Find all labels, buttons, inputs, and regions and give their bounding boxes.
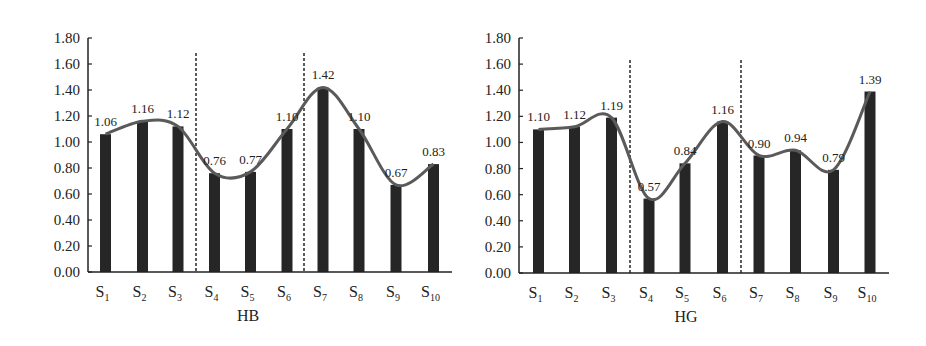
bar-s9 bbox=[828, 170, 839, 273]
x-tick-label: S2 bbox=[133, 283, 147, 303]
x-tick-label: S9 bbox=[824, 284, 838, 304]
y-tick-label: 1.00 bbox=[54, 134, 80, 150]
bar-s5 bbox=[680, 163, 691, 273]
value-label: 1.16 bbox=[711, 102, 734, 117]
y-tick-label: 1.40 bbox=[485, 82, 511, 98]
bar-s6 bbox=[282, 129, 293, 272]
y-tick-label: 0.00 bbox=[485, 265, 511, 281]
bar-s1 bbox=[100, 134, 111, 272]
bar-s4 bbox=[209, 173, 220, 272]
value-label: 0.57 bbox=[638, 179, 661, 194]
x-tick-label: S6 bbox=[713, 284, 727, 304]
y-tick-label: 0.80 bbox=[54, 160, 80, 176]
y-tick-label: 1.20 bbox=[485, 108, 511, 124]
x-tick-label: S4 bbox=[205, 283, 219, 303]
chart-canvas: 0.000.200.400.600.801.001.201.401.601.80… bbox=[0, 0, 926, 346]
bar-s3 bbox=[606, 118, 617, 273]
y-tick-label: 1.40 bbox=[54, 82, 80, 98]
value-label: 1.19 bbox=[600, 98, 623, 113]
bar-s1 bbox=[533, 129, 544, 273]
value-label: 0.84 bbox=[674, 143, 697, 158]
x-tick-label: S2 bbox=[565, 284, 579, 304]
x-tick-label: S5 bbox=[675, 284, 689, 304]
chart-hb: 0.000.200.400.600.801.001.201.401.601.80… bbox=[54, 30, 452, 324]
x-tick-label: S1 bbox=[529, 284, 543, 304]
value-label: 1.10 bbox=[527, 109, 550, 124]
value-label: 0.79 bbox=[822, 150, 845, 165]
y-tick-label: 1.00 bbox=[485, 134, 511, 150]
value-label: 0.90 bbox=[748, 136, 771, 151]
bar-s7 bbox=[754, 156, 765, 274]
y-tick-label: 0.80 bbox=[485, 161, 511, 177]
x-tick-label: S9 bbox=[386, 283, 400, 303]
bar-s5 bbox=[245, 172, 256, 272]
value-label: 1.39 bbox=[859, 72, 882, 87]
x-tick-label: S1 bbox=[96, 283, 110, 303]
x-tick-label: S6 bbox=[277, 283, 291, 303]
y-tick-label: 1.60 bbox=[54, 56, 80, 72]
value-label: 0.76 bbox=[203, 153, 226, 168]
value-label: 0.77 bbox=[239, 152, 262, 167]
bar-s9 bbox=[391, 185, 402, 272]
x-tick-label: S8 bbox=[349, 283, 363, 303]
x-tick-label: S4 bbox=[639, 284, 653, 304]
bar-s2 bbox=[137, 121, 148, 272]
value-label: 1.06 bbox=[94, 114, 117, 129]
bar-s4 bbox=[644, 199, 655, 273]
y-tick-label: 0.60 bbox=[54, 186, 80, 202]
x-tick-label: S5 bbox=[241, 283, 255, 303]
bar-s6 bbox=[717, 122, 728, 273]
x-tick-label: S10 bbox=[858, 284, 877, 304]
bar-s10 bbox=[865, 92, 876, 273]
x-tick-label: S8 bbox=[786, 284, 800, 304]
value-label: 0.67 bbox=[385, 165, 408, 180]
bar-s8 bbox=[790, 150, 801, 273]
bar-s10 bbox=[428, 164, 439, 272]
value-label: 1.16 bbox=[131, 101, 154, 116]
x-tick-label: S3 bbox=[602, 284, 616, 304]
trend-line bbox=[539, 92, 871, 200]
value-label: 1.42 bbox=[312, 67, 335, 82]
value-label: 0.94 bbox=[784, 130, 807, 145]
value-label: 1.12 bbox=[167, 106, 190, 121]
value-label: 1.10 bbox=[348, 109, 371, 124]
bar-s7 bbox=[318, 87, 329, 272]
chart-title: HB bbox=[237, 307, 259, 324]
y-tick-label: 1.20 bbox=[54, 108, 80, 124]
bar-s3 bbox=[173, 126, 184, 272]
y-tick-label: 0.20 bbox=[54, 238, 80, 254]
x-tick-label: S3 bbox=[168, 283, 182, 303]
y-tick-label: 1.80 bbox=[485, 30, 511, 46]
x-tick-label: S7 bbox=[313, 283, 327, 303]
y-tick-label: 0.40 bbox=[485, 213, 511, 229]
chart-hg: 0.000.200.400.600.801.001.201.401.601.80… bbox=[485, 30, 889, 325]
y-tick-label: 0.00 bbox=[54, 264, 80, 280]
x-tick-label: S7 bbox=[749, 284, 763, 304]
bar-s8 bbox=[354, 129, 365, 272]
y-tick-label: 1.80 bbox=[54, 30, 80, 46]
x-tick-label: S10 bbox=[421, 283, 440, 303]
value-label: 1.12 bbox=[563, 107, 586, 122]
bar-s2 bbox=[569, 127, 580, 273]
y-tick-label: 0.40 bbox=[54, 212, 80, 228]
chart-title: HG bbox=[674, 308, 698, 325]
value-label: 0.83 bbox=[422, 144, 445, 159]
y-tick-label: 1.60 bbox=[485, 56, 511, 72]
value-label: 1.10 bbox=[276, 109, 299, 124]
y-tick-label: 0.60 bbox=[485, 187, 511, 203]
y-tick-label: 0.20 bbox=[485, 239, 511, 255]
